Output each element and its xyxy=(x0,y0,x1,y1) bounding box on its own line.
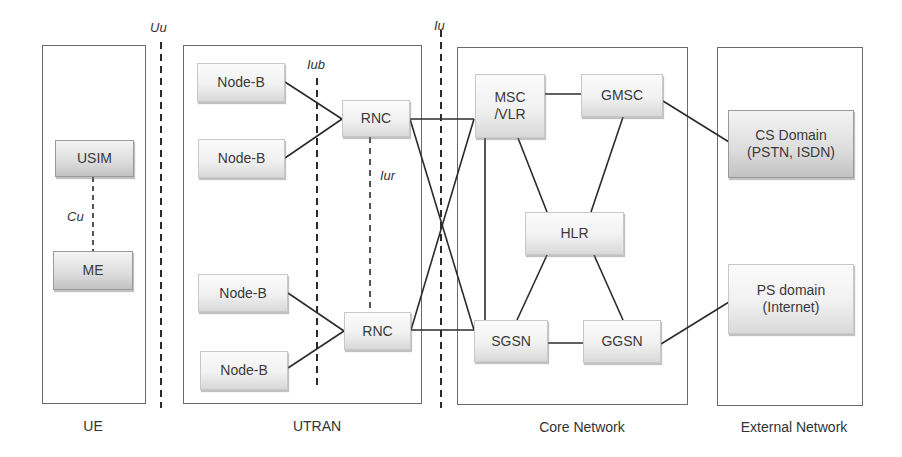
usim-node: USIM xyxy=(55,140,134,177)
uu-label: Uu xyxy=(150,20,167,35)
msc-hlr-link xyxy=(518,138,547,212)
ggsn-ps-domain-link xyxy=(661,302,729,344)
gmsc-label: GMSC xyxy=(601,87,643,104)
ue-region-label: UE xyxy=(83,418,102,434)
gmsc-node: GMSC xyxy=(581,74,663,117)
rnc-2-label: RNC xyxy=(362,323,392,340)
me-label: ME xyxy=(83,262,104,279)
node-b-1: Node-B xyxy=(197,63,285,102)
cs-domain-node: CS Domain (PSTN, ISDN) xyxy=(728,110,854,178)
node-b-2: Node-B xyxy=(198,139,285,178)
core-network-region-label: Core Network xyxy=(539,419,625,435)
rnc-1-label: RNC xyxy=(361,110,391,127)
msc-vlr-node: MSC /VLR xyxy=(475,74,545,138)
iur-label: Iur xyxy=(380,168,395,183)
ggsn-label: GGSN xyxy=(601,333,642,350)
cu-label: Cu xyxy=(67,209,84,224)
ps-domain-label: PS domain (Internet) xyxy=(757,282,825,316)
iu-label: Iu xyxy=(434,18,445,33)
gmsc-hlr-link xyxy=(591,117,623,212)
node-b-4: Node-B xyxy=(200,351,288,390)
node-b-2-label: Node-B xyxy=(218,150,265,167)
nodeb1-rnc1-link xyxy=(285,82,342,119)
sgsn-node: SGSN xyxy=(474,320,548,362)
hlr-node: HLR xyxy=(525,212,624,255)
ggsn-node: GGSN xyxy=(583,320,661,363)
gmsc-cs-domain-link xyxy=(663,101,729,142)
rnc-1: RNC xyxy=(342,100,410,137)
external-network-region-label: External Network xyxy=(741,419,848,435)
rnc-2: RNC xyxy=(344,312,411,350)
msc-vlr-label: MSC /VLR xyxy=(494,89,525,123)
node-b-3: Node-B xyxy=(198,274,288,312)
cs-domain-label: CS Domain (PSTN, ISDN) xyxy=(747,127,835,161)
hlr-sgsn-link xyxy=(517,255,547,320)
nodeb2-rnc1-link xyxy=(285,119,342,158)
node-b-3-label: Node-B xyxy=(219,285,266,302)
hlr-label: HLR xyxy=(560,225,588,242)
utran-region-label: UTRAN xyxy=(293,418,341,434)
me-node: ME xyxy=(53,251,133,290)
sgsn-label: SGSN xyxy=(491,333,531,350)
ps-domain-node: PS domain (Internet) xyxy=(728,264,854,334)
node-b-4-label: Node-B xyxy=(220,362,267,379)
hlr-ggsn-link xyxy=(594,255,623,320)
usim-label: USIM xyxy=(77,150,112,167)
iub-label: Iub xyxy=(307,57,325,72)
connection-lines xyxy=(0,0,902,457)
node-b-1-label: Node-B xyxy=(217,74,264,91)
